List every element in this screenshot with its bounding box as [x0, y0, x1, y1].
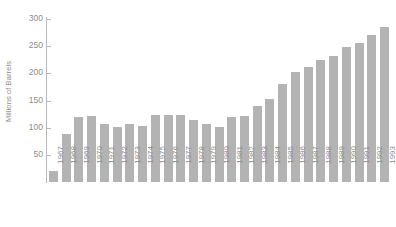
- x-axis-tick-label: 1977: [184, 146, 193, 186]
- x-axis-tick-label: 1974: [146, 146, 155, 186]
- x-axis-tick-label: 1989: [337, 146, 346, 186]
- x-axis-tick-label: 1993: [388, 146, 396, 186]
- x-axis-tick-label: 1979: [209, 146, 218, 186]
- x-axis-tick-label: 1978: [197, 146, 206, 186]
- x-axis-tick-label: 1967: [56, 146, 65, 186]
- bar-chart: Millions of Barrels 50100150200250300 19…: [0, 0, 396, 227]
- x-axis-tick-label: 1987: [311, 146, 320, 186]
- x-axis-tick-label: 1991: [362, 146, 371, 186]
- x-axis-tick-label: 1973: [133, 146, 142, 186]
- y-axis-tick-label: 300: [29, 13, 43, 23]
- x-axis-tick-label: 1970: [95, 146, 104, 186]
- x-axis-tick-label: 1983: [260, 146, 269, 186]
- y-axis-tick-label: 150: [29, 95, 43, 105]
- x-axis-tick-label: 1971: [107, 146, 116, 186]
- x-axis-tick-label: 1992: [375, 146, 384, 186]
- x-axis-tick-label: 1981: [235, 146, 244, 186]
- x-axis-tick-label: 1980: [222, 146, 231, 186]
- x-axis-tick-label: 1984: [273, 146, 282, 186]
- y-axis-tick-label: 50: [34, 149, 43, 159]
- x-axis-tick-label: 1982: [247, 146, 256, 186]
- y-axis-tick-label: 200: [29, 67, 43, 77]
- x-axis-tick-label: 1976: [171, 146, 180, 186]
- y-axis-tick-label: 100: [29, 122, 43, 132]
- y-axis-tick-label: 250: [29, 40, 43, 50]
- x-axis-tick-label: 1985: [286, 146, 295, 186]
- y-axis-title-text: Millions of Barrels: [5, 61, 14, 122]
- x-axis-tick-label: 1972: [120, 146, 129, 186]
- x-axis-tick-label: 1968: [69, 146, 78, 186]
- x-axis-tick-label: 1975: [158, 146, 167, 186]
- x-axis-tick-label: 1986: [298, 146, 307, 186]
- y-axis-title: Millions of Barrels: [0, 0, 18, 183]
- x-axis-tick-label: 1990: [349, 146, 358, 186]
- x-axis-tick-label: 1988: [324, 146, 333, 186]
- x-axis-tick-label: 1969: [82, 146, 91, 186]
